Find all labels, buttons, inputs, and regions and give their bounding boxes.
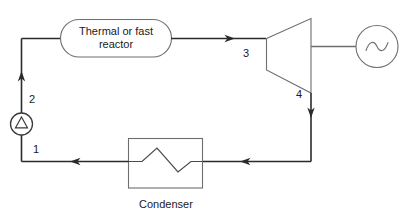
reactor-label: Thermal or fast reactor bbox=[74, 25, 158, 50]
generator-shape bbox=[356, 26, 398, 68]
flow-line-reactor-to-turbine bbox=[171, 35, 266, 42]
state-point-1-label: 1 bbox=[33, 143, 39, 156]
state-point-3-label: 3 bbox=[243, 47, 249, 60]
diagram-canvas: Thermal or fast reactor 1 2 3 4 Condense… bbox=[0, 0, 418, 220]
flow-line-turbine-to-condenser bbox=[202, 93, 315, 165]
condenser-caption: Condenser bbox=[139, 198, 193, 211]
reactor-label-line-2: reactor bbox=[74, 38, 158, 51]
reactor-label-line-1: Thermal or fast bbox=[74, 25, 158, 38]
condenser-rect bbox=[129, 139, 203, 189]
turbine-shape bbox=[267, 19, 312, 94]
pump-shape bbox=[11, 113, 33, 135]
state-point-2-label: 2 bbox=[29, 93, 35, 106]
state-point-4-label: 4 bbox=[296, 88, 302, 101]
power-cycle-diagram bbox=[0, 0, 418, 220]
condenser-shape bbox=[129, 139, 203, 189]
